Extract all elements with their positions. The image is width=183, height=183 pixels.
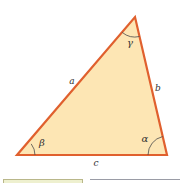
angle-label-gamma: γ [127,38,133,48]
angle-label-alpha: α [142,134,149,144]
side-label-a: a [69,77,74,86]
side-label-b: b [155,84,161,93]
triangle-diagram: γ a b β α c [0,0,183,183]
side-label-c: c [93,159,98,168]
footer-rule [90,179,180,180]
footer-box [3,179,83,183]
angle-label-beta: β [39,138,45,148]
